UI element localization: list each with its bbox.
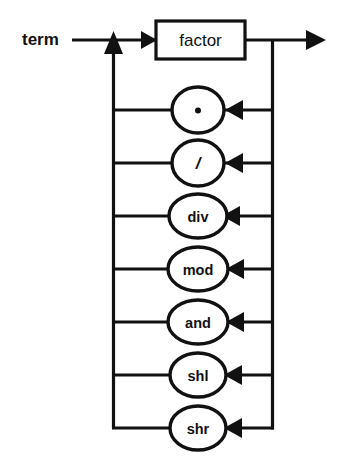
operator-row-divide: / bbox=[112, 140, 274, 186]
operator-label-6: shl bbox=[188, 368, 209, 384]
row-arrowhead-2 bbox=[225, 153, 243, 173]
operator-row-multiply: · bbox=[112, 87, 274, 133]
operator-row-and: and bbox=[112, 300, 274, 344]
operator-label-5: and bbox=[185, 315, 211, 331]
row-arrowhead-1 bbox=[225, 100, 243, 120]
operator-label-7: shr bbox=[187, 421, 210, 437]
operator-row-shr: shr bbox=[112, 406, 274, 450]
operator-row-mod: mod bbox=[112, 247, 274, 291]
loop-up-arrowhead bbox=[104, 31, 123, 54]
operator-label-3: div bbox=[188, 209, 209, 225]
operator-row-shl: shl bbox=[112, 353, 274, 397]
railroad-diagram-canvas: factor · / bbox=[0, 0, 340, 471]
entry-label-term: term bbox=[22, 30, 59, 49]
operator-label-4: mod bbox=[183, 262, 214, 278]
factor-label: factor bbox=[179, 31, 222, 50]
operator-row-div: div bbox=[112, 194, 274, 238]
exit-arrowhead bbox=[306, 30, 326, 50]
factor-node: factor bbox=[156, 21, 245, 59]
railroad-diagram: factor · / bbox=[0, 0, 340, 471]
